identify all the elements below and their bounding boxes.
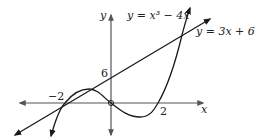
graph-canvas: y x 6 −2 2 y = x³ − 4x y = 3x + 6 [0, 0, 256, 138]
x-neg-tick-label: −2 [48, 90, 64, 103]
x-axis-label: x [201, 103, 208, 116]
y-intercept-label: 6 [101, 67, 108, 80]
line-equation-label: y = 3x + 6 [195, 25, 255, 38]
line-curve [15, 19, 210, 135]
x-pos-tick-label: 2 [160, 105, 167, 118]
cubic-equation-label: y = x³ − 4x [126, 9, 190, 22]
y-axis-label: y [99, 9, 107, 22]
